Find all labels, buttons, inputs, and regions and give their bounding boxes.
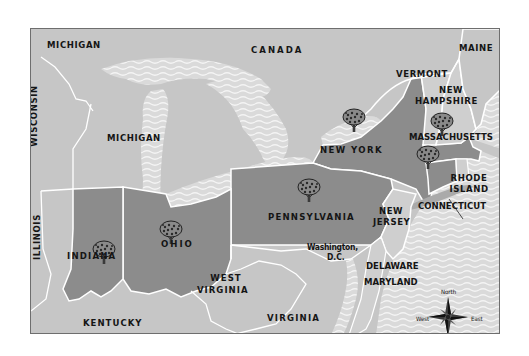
label-pennsylvania: PENNSYLVANIA (268, 212, 355, 222)
state-pennsylvania (231, 163, 393, 245)
label-rhode-island-line2: ISLAND (449, 184, 489, 194)
label-new-jersey-line1: NEW (373, 206, 409, 216)
label-michigan-upper: MICHIGAN (47, 40, 101, 50)
label-ohio: OHIO (161, 239, 194, 249)
label-vermont: VERMONT (396, 69, 448, 79)
label-massachusetts: MASSACHUSETTS (409, 132, 493, 142)
label-new-york: NEW YORK (320, 145, 383, 155)
label-maine: MAINE (459, 43, 493, 53)
label-new-jersey-line2: JERSEY (373, 217, 409, 227)
label-wisconsin: WISCONSIN (30, 81, 39, 151)
label-west-virginia-line2: VIRGINIA (197, 285, 249, 295)
label-washington-dc-line2: D.C. (327, 252, 345, 262)
label-new-hampshire-line1: NEW (426, 85, 476, 95)
label-virginia: VIRGINIA (267, 313, 320, 323)
compass-label-west: West (416, 314, 429, 324)
label-connecticut: CONNECTICUT (418, 201, 486, 211)
label-west-virginia-line1: WEST (201, 273, 251, 283)
label-kentucky: KENTUCKY (83, 318, 142, 328)
label-indiana: INDIANA (67, 251, 116, 261)
label-michigan-lower: MICHIGAN (107, 133, 161, 143)
label-washington-dc-line1: Washington, (307, 242, 358, 252)
map: MICHIGAN WISCONSIN MICHIGAN CANADA MAINE… (30, 28, 500, 334)
label-maryland: MARYLAND (364, 277, 418, 287)
label-rhode-island-line1: RHODE (449, 173, 489, 183)
label-illinois: ILLINOIS (32, 207, 42, 267)
compass-label-north: North (441, 287, 456, 297)
label-new-hampshire-line2: HAMPSHIRE (415, 96, 478, 106)
compass-label-east: East (471, 314, 483, 324)
label-canada: CANADA (251, 45, 303, 55)
label-delaware: DELAWARE (366, 261, 419, 271)
